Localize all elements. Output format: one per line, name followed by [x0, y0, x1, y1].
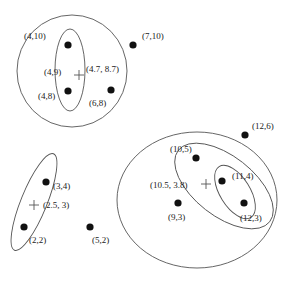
data-point-p5_2: [86, 223, 93, 230]
centroid-plus-icon: [74, 70, 84, 80]
data-point-p12_6: [241, 131, 248, 138]
point-label: (2,2): [29, 235, 46, 245]
data-point-p4_10: [64, 41, 71, 48]
data-point-p9_3: [174, 199, 181, 206]
centroid-plus-icon: [29, 200, 39, 210]
point-label: (6,8): [89, 98, 106, 108]
point-label: (7,10): [142, 31, 164, 41]
point-label: (5,2): [92, 235, 109, 245]
data-point-p12_3: [240, 199, 247, 206]
data-point-p10_5: [192, 154, 199, 161]
clustering-diagram: (4,10)(4,8)(7,10)(6,8)(3,4)(2,2)(5,2)(12…: [0, 0, 291, 289]
diagram-svg: (4,10)(4,8)(7,10)(6,8)(3,4)(2,2)(5,2)(12…: [0, 0, 291, 289]
centroid-label: (4.7, 8.7): [86, 64, 119, 74]
centroid-label: (4,9): [44, 67, 61, 77]
centroid-label: (2.5, 3): [43, 200, 69, 210]
centroid-plus-icon: [201, 179, 211, 189]
point-label: (10,5): [170, 144, 192, 154]
data-point-p7_10: [129, 41, 136, 48]
data-point-p6_8: [107, 86, 114, 93]
point-label: (4,10): [24, 31, 46, 41]
data-point-p2_2: [20, 223, 27, 230]
point-label: (11,4): [232, 171, 253, 181]
point-label: (3,4): [53, 181, 70, 191]
data-point-p3_4: [42, 178, 49, 185]
point-label: (12,6): [252, 121, 274, 131]
point-label: (12,3): [240, 213, 262, 223]
point-label: (4,8): [38, 91, 55, 101]
cluster-big-circle-right: [117, 132, 277, 268]
point-label: (9,3): [168, 212, 185, 222]
data-point-p4_8: [64, 87, 71, 94]
centroid-label: (10.5, 3.8): [150, 180, 188, 190]
data-point-p11_4: [218, 177, 225, 184]
